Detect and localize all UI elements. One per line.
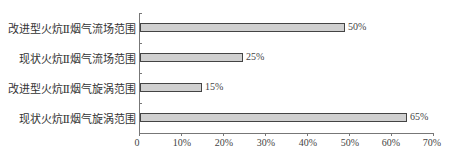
x-tick-label: 50% [341,137,359,148]
bar [140,23,345,32]
x-tick-label: 40% [299,137,317,148]
bar [140,83,202,92]
category-label: 现状火炕Ⅱ烟气流场范围 [19,50,136,66]
bar [140,53,243,62]
x-tick [349,133,350,136]
category-label: 现状火炕Ⅱ烟气旋涡范围 [19,110,136,126]
x-tick-label: 70% [423,137,441,148]
x-tick [433,133,434,136]
y-tick [139,73,142,74]
x-tick-label: 10% [173,137,191,148]
value-label: 25% [246,51,264,62]
x-tick [307,133,308,136]
x-tick-label: 60% [382,137,400,148]
x-tick [223,133,224,136]
x-tick-label: 30% [257,137,275,148]
value-label: 15% [205,81,223,92]
category-label: 改进型火炕Ⅱ烟气旋涡范围 [8,80,136,96]
value-label: 50% [348,21,366,32]
x-axis [139,133,434,134]
x-tick-label: 0 [135,137,140,148]
x-tick [265,133,266,136]
y-tick [139,103,142,104]
y-tick [139,13,142,14]
category-label: 改进型火炕Ⅱ烟气流场范围 [8,20,136,36]
horizontal-bar-chart: 改进型火炕Ⅱ烟气流场范围 现状火炕Ⅱ烟气流场范围 改进型火炕Ⅱ烟气旋涡范围 现状… [0,0,454,154]
x-tick [139,133,140,136]
value-label: 65% [410,111,428,122]
x-tick [391,133,392,136]
bar [140,113,407,122]
y-tick [139,43,142,44]
x-tick [181,133,182,136]
x-tick-label: 20% [215,137,233,148]
